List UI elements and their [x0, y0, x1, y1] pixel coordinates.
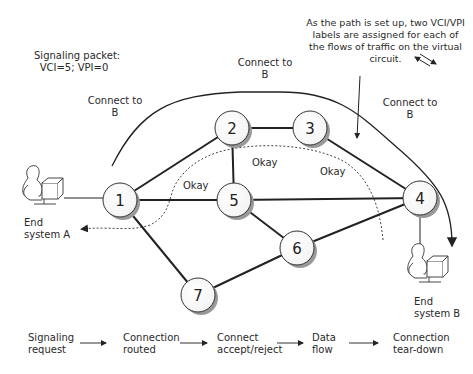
- step-connection-tear-down: Connection tear-down: [393, 332, 450, 356]
- signaling-packet-line1: Signaling packet:: [34, 50, 114, 62]
- signaling-packet-line2: VCI=5; VPI=0: [34, 62, 114, 74]
- step-2-line2: routed: [123, 344, 180, 356]
- step-data-flow: Data flow: [312, 332, 336, 356]
- step-5-line2: tear-down: [393, 344, 450, 356]
- connect-right-line2: B: [377, 109, 443, 121]
- network-links: [120, 128, 420, 295]
- okay-label-1: Okay: [183, 180, 209, 192]
- vci-note-line2: labels are assigned for each of: [298, 29, 473, 41]
- svg-text:2: 2: [227, 120, 237, 138]
- okay-label-3: Okay: [320, 166, 346, 178]
- note-pointer-arrow: [357, 76, 360, 138]
- svg-text:6: 6: [292, 240, 302, 258]
- step-connect-accept-reject: Connect accept/reject: [217, 332, 282, 356]
- step-3-line2: accept/reject: [217, 344, 282, 356]
- switch-node-2: 2: [215, 111, 252, 148]
- end-system-a-line2: system A: [24, 229, 70, 241]
- switch-node-5: 5: [217, 183, 254, 220]
- step-1-line2: request: [28, 344, 74, 356]
- connect-right-line1: Connect to: [377, 97, 443, 109]
- vci-vpi-note: As the path is set up, two VCI/VPI label…: [298, 17, 473, 65]
- connect-left-line2: B: [82, 107, 148, 119]
- step-4-line2: flow: [312, 344, 336, 356]
- connect-top-line2: B: [232, 69, 298, 81]
- step-4-line1: Data: [312, 332, 336, 344]
- step-signaling-request: Signaling request: [28, 332, 74, 356]
- connect-top-line1: Connect to: [232, 57, 298, 69]
- switch-node-3: 3: [293, 111, 330, 148]
- connect-to-b-label-right: Connect to B: [377, 97, 443, 121]
- end-system-b-icon: [408, 244, 448, 282]
- svg-text:1: 1: [115, 192, 125, 210]
- vci-note-line1: As the path is set up, two VCI/VPI: [298, 17, 473, 29]
- step-2-line1: Connection: [123, 332, 180, 344]
- end-system-b-line1: End: [414, 296, 460, 308]
- end-system-a-line1: End: [24, 217, 70, 229]
- switch-node-6: 6: [280, 231, 317, 268]
- signaling-packet-label: Signaling packet: VCI=5; VPI=0: [34, 50, 114, 74]
- svg-text:4: 4: [415, 190, 425, 208]
- vci-note-line3: the flows of traffic on the virtual: [298, 41, 473, 53]
- end-system-a-icon: [23, 166, 63, 204]
- svg-text:5: 5: [229, 192, 239, 210]
- step-3-line1: Connect: [217, 332, 282, 344]
- step-1-line1: Signaling: [28, 332, 74, 344]
- okay-label-2: Okay: [252, 157, 278, 169]
- switch-node-1: 1: [103, 183, 140, 220]
- end-system-b-label: End system B: [414, 296, 460, 320]
- end-system-b-line2: system B: [414, 308, 460, 320]
- svg-text:7: 7: [193, 287, 203, 305]
- connect-to-b-label-left: Connect to B: [82, 95, 148, 119]
- connect-to-b-label-top: Connect to B: [232, 57, 298, 81]
- svg-text:3: 3: [305, 120, 315, 138]
- connect-left-line1: Connect to: [82, 95, 148, 107]
- end-system-a-label: End system A: [24, 217, 70, 241]
- vci-note-line4: circuit.: [298, 53, 473, 65]
- switch-node-7: 7: [181, 278, 218, 315]
- step-5-line1: Connection: [393, 332, 450, 344]
- step-connection-routed: Connection routed: [123, 332, 180, 356]
